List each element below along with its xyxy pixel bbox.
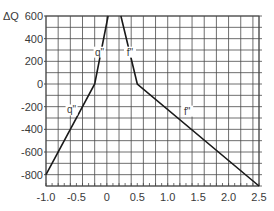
series-label: q": [67, 104, 77, 115]
y-tick-label: -400: [21, 123, 43, 135]
x-tick-label: 0: [104, 191, 110, 203]
x-tick-label: -0.5: [67, 191, 86, 203]
y-axis-title: ΔQ: [3, 10, 19, 22]
y-tick-label: 0: [37, 78, 43, 90]
y-tick-label: -600: [21, 146, 43, 158]
series-label: q": [95, 47, 105, 58]
x-tick-label: 1.0: [160, 191, 175, 203]
plot-frame: [46, 16, 259, 186]
y-tick-label: 200: [25, 55, 43, 67]
x-tick-label: 1.5: [190, 191, 205, 203]
chart-labels: q"q"f"f": [66, 47, 194, 117]
x-tick-label: 0.5: [130, 191, 145, 203]
y-tick-label: 600: [25, 10, 43, 22]
chart-series: [46, 16, 259, 186]
series-label: f": [127, 47, 134, 58]
y-tick-label: -800: [21, 169, 43, 181]
y-tick-label: -200: [21, 101, 43, 113]
series-label: f": [184, 106, 191, 117]
delta-q-chart: 6004002000-200-400-600-800-1.0-0.500.51.…: [0, 0, 274, 211]
x-tick-label: 2.5: [251, 191, 266, 203]
series-line: [121, 16, 259, 186]
y-tick-label: 400: [25, 33, 43, 45]
x-tick-label: 2.0: [221, 191, 236, 203]
x-tick-label: -1.0: [37, 191, 56, 203]
